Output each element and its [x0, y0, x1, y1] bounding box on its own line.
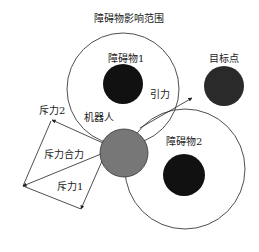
repulsion-resultant-label: 斥力合力	[44, 148, 84, 160]
repulsion1-arrow	[81, 161, 102, 209]
robot-label: 机器人	[84, 111, 114, 123]
obstacle1	[103, 64, 143, 104]
repulsion2-label: 斥力2	[39, 104, 65, 116]
repulsion2-arrow	[52, 120, 103, 143]
attraction-label: 引力	[150, 88, 170, 100]
potential-field-diagram: 障碍物影响范围 障碍物1 目标点 障碍物2 引力 机器人 斥力2 斥力合力 斥力…	[0, 0, 259, 252]
obstacle2-label: 障碍物2	[166, 135, 202, 147]
obstacle1-label: 障碍物1	[108, 52, 144, 64]
target-point	[204, 66, 244, 106]
attraction-arrow	[140, 98, 192, 128]
obstacle2	[163, 154, 205, 196]
influence-range-label: 障碍物影响范围	[94, 12, 164, 24]
robot	[100, 129, 148, 177]
target-label: 目标点	[209, 53, 239, 64]
repulsion1-label: 斥力1	[57, 180, 83, 192]
